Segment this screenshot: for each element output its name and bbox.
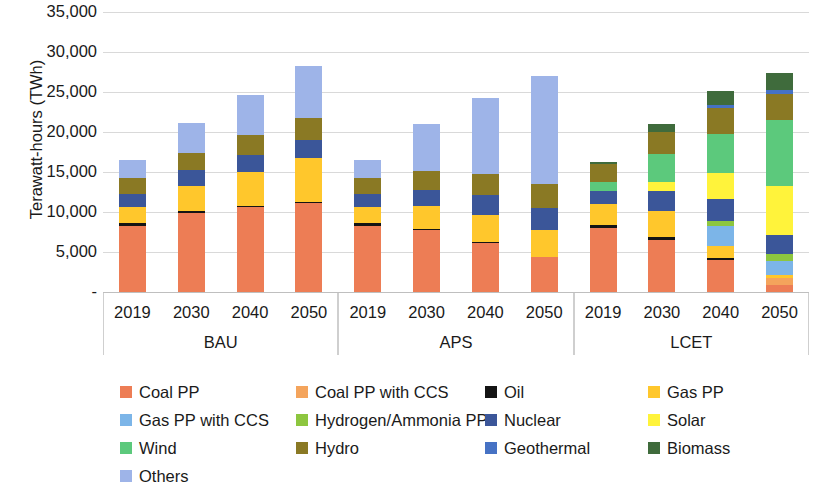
- bar-segment[interactable]: [590, 164, 617, 182]
- bar-segment[interactable]: [707, 260, 734, 292]
- bar-segment[interactable]: [354, 160, 381, 178]
- bar-segment[interactable]: [237, 95, 264, 135]
- bar-segment[interactable]: [707, 91, 734, 105]
- legend-item[interactable]: Gas PP with CCS: [120, 406, 296, 434]
- legend-item[interactable]: Gas PP: [648, 378, 798, 406]
- bar-segment[interactable]: [766, 235, 793, 253]
- bar-segment[interactable]: [413, 124, 440, 171]
- bar-segment[interactable]: [413, 206, 440, 228]
- stacked-bar[interactable]: [766, 73, 793, 292]
- stacked-bar[interactable]: [590, 162, 617, 292]
- bar-segment[interactable]: [295, 66, 322, 119]
- bar-segment[interactable]: [648, 182, 675, 192]
- stacked-bar[interactable]: [531, 76, 558, 292]
- legend-item[interactable]: Solar: [648, 406, 798, 434]
- bar-segment[interactable]: [178, 213, 205, 292]
- bar-segment[interactable]: [119, 160, 146, 178]
- bar-segment[interactable]: [531, 208, 558, 230]
- bar-segment[interactable]: [472, 195, 499, 215]
- stacked-bar[interactable]: [178, 123, 205, 292]
- bar-segment[interactable]: [766, 278, 793, 285]
- bar-segment[interactable]: [119, 226, 146, 292]
- stacked-bar[interactable]: [648, 124, 675, 292]
- bar-segment[interactable]: [472, 243, 499, 292]
- bar-segment[interactable]: [766, 94, 793, 120]
- bar-segment[interactable]: [413, 171, 440, 190]
- bar-segment[interactable]: [354, 226, 381, 292]
- bar-segment[interactable]: [237, 155, 264, 172]
- stacked-bar[interactable]: [119, 160, 146, 292]
- bar-segment[interactable]: [766, 186, 793, 236]
- bar-segment[interactable]: [119, 194, 146, 208]
- bar-segment[interactable]: [295, 118, 322, 140]
- bar-segment[interactable]: [707, 108, 734, 134]
- bar-segment[interactable]: [707, 173, 734, 199]
- bar-segment[interactable]: [531, 184, 558, 208]
- x-axis-group-label: BAU: [103, 331, 338, 353]
- bar-segment[interactable]: [766, 73, 793, 90]
- legend-item[interactable]: Biomass: [648, 434, 798, 462]
- stacked-bar[interactable]: [237, 95, 264, 292]
- bar-segment[interactable]: [354, 178, 381, 194]
- bar-segment[interactable]: [472, 98, 499, 173]
- legend-item[interactable]: Coal PP with CCS: [296, 378, 485, 406]
- bar-segment[interactable]: [590, 204, 617, 225]
- bar-segment[interactable]: [590, 228, 617, 292]
- bar-segment[interactable]: [413, 190, 440, 206]
- legend-item[interactable]: Hydro: [296, 434, 485, 462]
- bar-segment[interactable]: [295, 203, 322, 292]
- bar-segment[interactable]: [648, 211, 675, 237]
- bar-segment[interactable]: [119, 207, 146, 223]
- legend-label: Coal PP: [139, 383, 200, 402]
- legend-item[interactable]: Geothermal: [485, 434, 648, 462]
- bar-segment[interactable]: [766, 120, 793, 186]
- bar-segment[interactable]: [648, 132, 675, 154]
- bar-segment[interactable]: [472, 215, 499, 242]
- legend-item[interactable]: Coal PP: [120, 378, 296, 406]
- legend-item[interactable]: Hydrogen/Ammonia PP: [296, 406, 485, 434]
- bar-segment[interactable]: [178, 153, 205, 171]
- bar-segment[interactable]: [295, 140, 322, 158]
- bar-segment[interactable]: [590, 182, 617, 192]
- bar-segment[interactable]: [413, 230, 440, 292]
- bar-segment[interactable]: [119, 178, 146, 194]
- bar-segment[interactable]: [707, 226, 734, 245]
- stacked-bar[interactable]: [472, 98, 499, 292]
- bar-segment[interactable]: [472, 174, 499, 196]
- legend-swatch-icon: [296, 442, 308, 454]
- bar-segment[interactable]: [178, 170, 205, 185]
- bar-segment[interactable]: [237, 172, 264, 206]
- stacked-bar[interactable]: [295, 66, 322, 292]
- bar-segment[interactable]: [354, 194, 381, 208]
- bar-segment[interactable]: [531, 76, 558, 184]
- bar-segment[interactable]: [648, 191, 675, 211]
- chart-page: Terawatt-hours (TWh) 35,00030,00025,0002…: [0, 0, 817, 496]
- legend-row: WindHydroGeothermalBiomass: [120, 434, 810, 462]
- bar-segment[interactable]: [295, 158, 322, 201]
- bar-segment[interactable]: [237, 207, 264, 292]
- bar-segment[interactable]: [766, 254, 793, 261]
- bar-segment[interactable]: [178, 186, 205, 212]
- bar-segment[interactable]: [354, 207, 381, 223]
- legend-item[interactable]: Nuclear: [485, 406, 648, 434]
- stacked-bar[interactable]: [707, 91, 734, 292]
- bar-segment[interactable]: [590, 191, 617, 204]
- bar-segment[interactable]: [707, 246, 734, 258]
- bar-segment[interactable]: [237, 135, 264, 155]
- bar-segment[interactable]: [766, 285, 793, 292]
- bar-segment[interactable]: [707, 134, 734, 172]
- legend-item[interactable]: Others: [120, 462, 296, 490]
- bar-segment[interactable]: [707, 199, 734, 221]
- x-axis-year-label: 2030: [632, 300, 691, 324]
- stacked-bar[interactable]: [413, 124, 440, 292]
- bar-segment[interactable]: [766, 261, 793, 275]
- stacked-bar[interactable]: [354, 160, 381, 292]
- bar-segment[interactable]: [178, 123, 205, 153]
- bar-segment[interactable]: [648, 124, 675, 132]
- bar-segment[interactable]: [648, 154, 675, 182]
- legend-item[interactable]: Oil: [485, 378, 648, 406]
- bar-segment[interactable]: [531, 230, 558, 256]
- bar-segment[interactable]: [531, 257, 558, 292]
- legend-item[interactable]: Wind: [120, 434, 296, 462]
- bar-segment[interactable]: [648, 240, 675, 292]
